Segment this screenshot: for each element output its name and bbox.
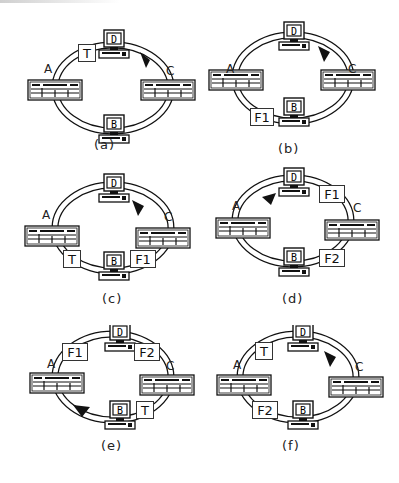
- panel-d: D B A C F1 F2 (d): [205, 165, 385, 315]
- token-frame: T: [255, 342, 273, 360]
- station-label-a: A: [44, 62, 52, 76]
- workstation-b: B: [279, 98, 309, 126]
- data-frame-f2: F2: [252, 401, 278, 419]
- concentrator-c: [141, 80, 195, 100]
- svg-text:B: B: [111, 256, 117, 267]
- svg-text:B: B: [300, 405, 306, 416]
- concentrator-c: [140, 375, 194, 395]
- workstation-b: B: [279, 248, 309, 276]
- workstation-d: D: [279, 168, 309, 196]
- panel-e: D B A C F1 F2 T (e): [20, 325, 200, 475]
- arrowhead-icon: [318, 46, 330, 62]
- arrowhead-icon: [324, 351, 336, 367]
- arrowhead-icon: [262, 193, 276, 205]
- top-edge-artifact: [0, 0, 120, 3]
- workstation-b: B: [288, 401, 318, 429]
- panel-caption: (f): [282, 438, 300, 453]
- data-frame-f1: F1: [130, 250, 156, 268]
- station-label-a: A: [232, 199, 240, 213]
- station-label-a: A: [47, 357, 55, 371]
- ring-diagram: D B: [200, 10, 380, 160]
- panel-a: D B A C T (a): [20, 20, 200, 170]
- data-frame-f1: F1: [250, 108, 274, 126]
- station-label-c: C: [164, 210, 172, 224]
- station-label-c: C: [355, 360, 363, 374]
- workstation-d: D: [99, 174, 129, 202]
- panel-caption: (a): [94, 137, 115, 152]
- svg-text:D: D: [111, 34, 117, 45]
- panel-b: D B A C F1 (b): [200, 10, 380, 160]
- workstation-d: D: [105, 325, 135, 351]
- data-frame-f1: F1: [62, 343, 88, 361]
- svg-text:B: B: [117, 405, 123, 416]
- workstation-d: D: [288, 325, 318, 351]
- workstation-b: B: [99, 252, 129, 280]
- station-label-a: A: [233, 358, 241, 372]
- concentrator-a: [25, 226, 79, 246]
- arrowhead-icon: [132, 200, 144, 216]
- svg-text:D: D: [300, 327, 306, 338]
- station-label-a: A: [42, 208, 50, 222]
- concentrator-a: [217, 375, 271, 395]
- panel-caption: (d): [282, 291, 303, 306]
- token-frame: T: [63, 250, 81, 268]
- data-frame-f1: F1: [319, 185, 345, 203]
- panel-f: D B A C T F2 (f): [208, 325, 388, 475]
- workstation-d: D: [279, 22, 309, 50]
- concentrator-c: [325, 220, 379, 240]
- station-label-c: C: [348, 62, 356, 76]
- svg-text:B: B: [111, 119, 117, 130]
- svg-text:D: D: [291, 26, 297, 37]
- station-label-c: C: [166, 359, 174, 373]
- data-frame-f2: F2: [319, 249, 345, 267]
- station-label-c: C: [166, 64, 174, 78]
- svg-text:D: D: [111, 178, 117, 189]
- concentrator-a: [30, 373, 84, 393]
- concentrator-a: [216, 218, 270, 238]
- panel-caption: (b): [278, 141, 299, 156]
- station-label-c: C: [353, 201, 361, 215]
- token-frame: T: [78, 44, 96, 62]
- concentrator-a: [209, 70, 263, 90]
- svg-text:D: D: [291, 172, 297, 183]
- panel-c: D B A C T F1 (c): [20, 170, 200, 320]
- panel-caption: (e): [101, 438, 122, 453]
- workstation-b: B: [105, 401, 135, 429]
- workstation-d: D: [99, 30, 129, 58]
- concentrator-c: [136, 228, 190, 248]
- token-frame: T: [136, 401, 154, 419]
- station-label-a: A: [226, 62, 234, 76]
- data-frame-f2: F2: [134, 343, 160, 361]
- svg-text:B: B: [291, 252, 297, 263]
- panel-caption: (c): [102, 291, 122, 306]
- svg-text:D: D: [117, 327, 123, 338]
- svg-text:B: B: [291, 102, 297, 113]
- concentrator-c: [329, 377, 383, 397]
- concentrator-a: [28, 80, 82, 100]
